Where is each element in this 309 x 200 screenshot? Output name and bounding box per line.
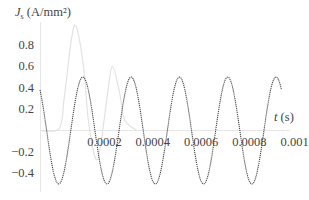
x-tick-labels: 0.00020.00040.00060.00080.001: [87, 135, 308, 149]
y-tick-labels: 0.80.60.40.2−0.2−0.4: [11, 38, 34, 180]
y-axis-title: Js (A/mm²): [15, 5, 71, 21]
x-tick-label: 0.001: [281, 135, 309, 149]
y-tick-label: 0.8: [18, 38, 34, 52]
y-tick-label: −0.2: [11, 145, 34, 159]
y-tick-label: 0.2: [18, 102, 34, 116]
x-tick-label: 0.0002: [87, 135, 121, 149]
y-tick-label: 0.6: [18, 59, 34, 73]
chart: 0.80.60.40.2−0.2−0.4 0.00020.00040.00060…: [0, 0, 308, 200]
y-tick-label: −0.4: [11, 166, 34, 180]
x-axis-title: t (s): [274, 110, 294, 124]
x-tick-label: 0.0008: [232, 135, 266, 149]
x-tick-label: 0.0006: [184, 135, 218, 149]
y-tick-label: 0.4: [18, 81, 34, 95]
x-tick-label: 0.0004: [136, 135, 171, 149]
